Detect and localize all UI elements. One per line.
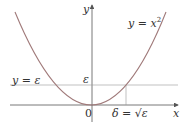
origin-label: 0 bbox=[85, 108, 92, 119]
delta-label: δ = √ε bbox=[112, 108, 148, 119]
curve-label: y = x2 bbox=[128, 17, 161, 29]
hline-label: y = ε bbox=[12, 75, 40, 86]
epsilon-tick-label: ε bbox=[83, 74, 89, 85]
parabola-diagram: y = x2 y = ε y x ε 0 δ = √ε bbox=[0, 0, 189, 128]
y-axis-label: y bbox=[83, 4, 89, 15]
x-axis-label: x bbox=[173, 108, 179, 119]
